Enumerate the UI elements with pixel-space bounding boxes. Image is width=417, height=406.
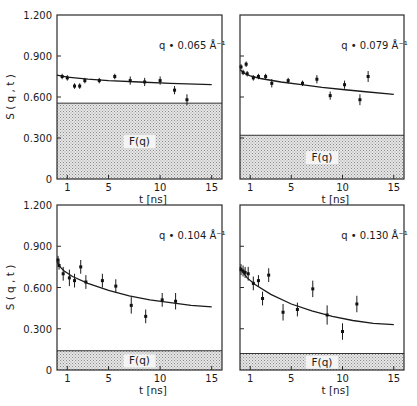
data-point (57, 259, 60, 262)
x-tick-label: 15 (205, 373, 218, 384)
data-point (267, 274, 270, 277)
data-point (114, 285, 117, 288)
data-point (144, 315, 147, 318)
data-point (68, 276, 71, 279)
data-point (282, 311, 285, 314)
panel-bottom-right: F(q)151015t [ns]q • 0.130 Å⁻¹ (240, 205, 408, 396)
data-point (247, 272, 250, 275)
data-point (257, 279, 260, 282)
x-tick-label: 1 (247, 373, 253, 384)
data-point (159, 79, 162, 82)
data-point (264, 75, 267, 78)
data-point (246, 72, 249, 75)
data-point (341, 330, 344, 333)
panel-bottom-left: F(q)00.3000.6000.9001.200S ( q , t )1510… (4, 200, 226, 396)
fq-label: F(q) (129, 354, 150, 366)
data-point (73, 279, 76, 282)
y-tick-label: 0.600 (23, 92, 52, 103)
data-point (129, 79, 132, 82)
y-tick-label: 0.300 (23, 324, 52, 335)
y-axis-title: S ( q , t ) (4, 265, 16, 311)
data-point (66, 76, 69, 79)
data-point (244, 271, 247, 274)
y-tick-label: 0 (46, 174, 52, 185)
data-point (83, 79, 86, 82)
data-point (270, 82, 273, 85)
x-tick-label: 5 (288, 373, 294, 384)
data-point (287, 79, 290, 82)
fit-curve (57, 75, 212, 85)
q-value-label: q • 0.130 Å⁻¹ (341, 229, 408, 241)
x-tick-label: 1 (64, 373, 70, 384)
q-value-label: q • 0.079 Å⁻¹ (341, 39, 408, 51)
fq-label: F(q) (312, 356, 333, 368)
data-point (358, 98, 361, 101)
x-tick-label: 10 (154, 373, 167, 384)
x-tick-label: 10 (336, 182, 349, 193)
y-tick-label: 0.300 (23, 133, 52, 144)
x-axis-title: t [ns] (321, 193, 349, 205)
data-point (367, 75, 370, 78)
data-point (113, 75, 116, 78)
x-axis-title: t [ns] (139, 193, 167, 205)
fq-label: F(q) (129, 135, 150, 147)
data-point (252, 282, 255, 285)
data-point (79, 265, 82, 268)
y-tick-label: 1.200 (23, 200, 52, 211)
x-tick-label: 10 (336, 373, 349, 384)
x-tick-label: 15 (387, 373, 400, 384)
data-point (296, 308, 299, 311)
x-tick-label: 15 (387, 182, 400, 193)
data-point (84, 281, 87, 284)
data-point (261, 297, 264, 300)
x-tick-label: 1 (247, 182, 253, 193)
data-point (242, 71, 245, 74)
panel-top-right: F(q)151015t [ns]q • 0.079 Å⁻¹ (240, 15, 408, 205)
y-tick-label: 0.900 (23, 51, 52, 62)
data-point (326, 314, 329, 317)
data-point (173, 89, 176, 92)
data-point (98, 79, 101, 82)
data-point (301, 82, 304, 85)
data-point (311, 287, 314, 290)
x-axis-title: t [ns] (321, 384, 349, 396)
fit-curve (240, 267, 394, 325)
x-tick-label: 1 (64, 182, 70, 193)
data-point (174, 300, 177, 303)
data-point (355, 303, 358, 306)
x-tick-label: 10 (154, 182, 167, 193)
data-point (343, 83, 346, 86)
data-point (185, 98, 188, 101)
panel-top-left: F(q)00.3000.6000.9001.200S ( q , t )1510… (4, 10, 226, 205)
data-point (130, 304, 133, 307)
y-tick-label: 1.200 (23, 10, 52, 21)
y-tick-label: 0.900 (23, 241, 52, 252)
q-value-label: q • 0.104 Å⁻¹ (159, 229, 226, 241)
x-tick-label: 5 (288, 182, 294, 193)
data-point (78, 85, 81, 88)
x-tick-label: 5 (105, 182, 111, 193)
data-point (240, 65, 243, 68)
q-value-label: q • 0.065 Å⁻¹ (159, 39, 226, 51)
data-point (61, 75, 64, 78)
data-point (161, 298, 164, 301)
x-tick-label: 5 (105, 373, 111, 384)
x-axis-title: t [ns] (139, 384, 167, 396)
figure: F(q)00.3000.6000.9001.200S ( q , t )1510… (0, 0, 417, 406)
data-point (101, 279, 104, 282)
data-point (245, 63, 248, 66)
data-point (257, 75, 260, 78)
data-point (62, 272, 65, 275)
data-point (58, 264, 61, 267)
data-point (329, 94, 332, 97)
data-point (315, 78, 318, 81)
fq-label: F(q) (312, 151, 333, 163)
data-point (252, 76, 255, 79)
data-point (73, 85, 76, 88)
x-tick-label: 15 (205, 182, 218, 193)
y-axis-title: S ( q , t ) (4, 74, 16, 120)
y-tick-label: 0.600 (23, 283, 52, 294)
y-tick-label: 0 (46, 365, 52, 376)
data-point (143, 80, 146, 83)
